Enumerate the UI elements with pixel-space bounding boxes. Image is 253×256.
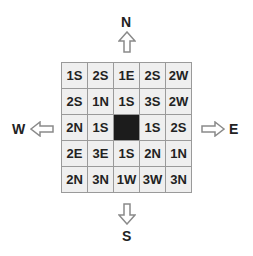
grid-cell[interactable]: 2S — [88, 63, 114, 89]
direction-grid: 1S 2S 1E 2S 2W 2S 1N 1S 3S 2W 2N 1S 1S 2… — [61, 62, 192, 193]
grid-cell[interactable]: 2N — [62, 115, 88, 141]
grid-cell[interactable]: 2S — [62, 89, 88, 115]
grid-cell[interactable]: 1N — [88, 89, 114, 115]
grid-cell[interactable]: 1E — [114, 63, 140, 89]
grid-cell[interactable]: 3E — [88, 141, 114, 167]
grid-cell[interactable]: 3N — [166, 167, 192, 193]
east-label: E — [229, 121, 238, 137]
grid-cell[interactable]: 1S — [62, 63, 88, 89]
grid-cell[interactable]: 1S — [88, 115, 114, 141]
grid-row: 2E 3E 1S 2N 1N — [62, 141, 192, 167]
grid-row: 2S 1N 1S 3S 2W — [62, 89, 192, 115]
grid-cell[interactable]: 2S — [166, 115, 192, 141]
grid-cell[interactable]: 2N — [62, 167, 88, 193]
west-label: W — [12, 121, 25, 137]
grid-row: 2N 1S 1S 2S — [62, 115, 192, 141]
west-arrow-icon — [30, 121, 54, 137]
east-arrow-icon — [201, 121, 225, 137]
grid-cell[interactable]: 3N — [88, 167, 114, 193]
grid-row: 1S 2S 1E 2S 2W — [62, 63, 192, 89]
grid-cell[interactable]: 2S — [140, 63, 166, 89]
goal-cell[interactable] — [114, 115, 140, 141]
north-label: N — [121, 14, 131, 30]
grid-cell[interactable]: 2W — [166, 63, 192, 89]
grid-cell[interactable]: 1N — [166, 141, 192, 167]
north-arrow-icon — [118, 31, 136, 53]
grid-cell[interactable]: 2W — [166, 89, 192, 115]
grid-row: 2N 3N 1W 3W 3N — [62, 167, 192, 193]
south-arrow-icon — [118, 203, 136, 225]
grid-cell[interactable]: 3W — [140, 167, 166, 193]
grid-cell[interactable]: 1S — [140, 115, 166, 141]
grid-cell[interactable]: 1S — [114, 141, 140, 167]
grid-cell[interactable]: 2N — [140, 141, 166, 167]
grid-cell[interactable]: 2E — [62, 141, 88, 167]
grid-cell[interactable]: 3S — [140, 89, 166, 115]
grid-cell[interactable]: 1S — [114, 89, 140, 115]
grid-cell[interactable]: 1W — [114, 167, 140, 193]
south-label: S — [122, 228, 131, 244]
